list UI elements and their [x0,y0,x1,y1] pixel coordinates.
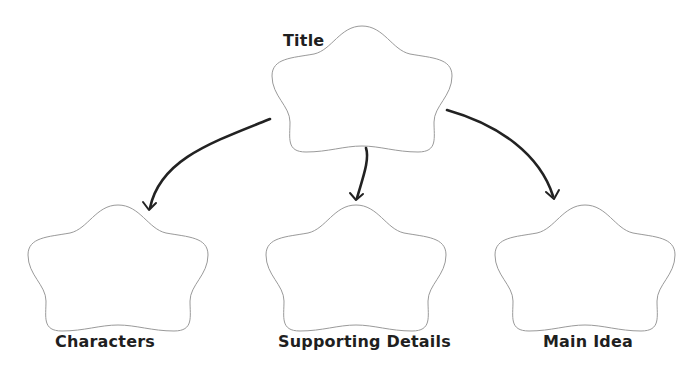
arrow-to-characters [143,119,270,210]
diagram-svg [0,0,697,371]
characters-label: Characters [55,332,155,351]
supporting-details-cloud[interactable] [266,205,446,331]
characters-cloud[interactable] [28,205,208,331]
title-label: Title [283,31,324,50]
supporting-details-label: Supporting Details [278,332,451,351]
arrow-to-supporting-details [350,148,367,200]
arrow-to-main-idea [447,110,559,199]
diagram-canvas: Title Characters Supporting Details Main… [0,0,697,371]
main-idea-label: Main Idea [543,332,633,351]
main-idea-cloud[interactable] [495,205,675,331]
